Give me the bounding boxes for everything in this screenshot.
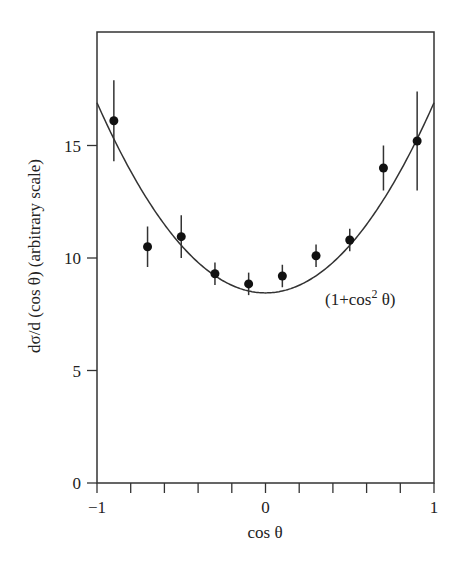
x-axis-ticks: −101 bbox=[88, 483, 438, 517]
curve-annotation: (1+cos2 θ) bbox=[325, 287, 395, 309]
point-marker bbox=[379, 164, 388, 173]
data-point bbox=[177, 215, 186, 258]
y-tick-label: 5 bbox=[73, 362, 82, 381]
point-marker bbox=[109, 116, 118, 125]
x-tick-label: 0 bbox=[261, 498, 270, 517]
data-point bbox=[210, 263, 219, 286]
point-marker bbox=[413, 137, 422, 146]
y-tick-label: 10 bbox=[64, 249, 81, 268]
point-marker bbox=[143, 242, 152, 251]
y-axis-label: dσ/d (cos θ) (arbitrary scale) bbox=[25, 159, 44, 353]
point-marker bbox=[177, 232, 186, 241]
point-marker bbox=[312, 251, 321, 260]
data-point bbox=[109, 80, 118, 161]
data-point bbox=[278, 265, 287, 288]
annotation-end: θ) bbox=[377, 290, 395, 309]
point-marker bbox=[244, 279, 253, 288]
data-point bbox=[312, 245, 321, 268]
point-marker bbox=[278, 272, 287, 281]
y-tick-label: 15 bbox=[64, 137, 81, 156]
data-point bbox=[379, 146, 388, 191]
x-tick-label: −1 bbox=[88, 498, 106, 517]
data-point bbox=[143, 227, 152, 268]
y-axis-ticks: 051015 bbox=[64, 137, 97, 494]
data-points bbox=[109, 80, 421, 295]
y-tick-label: 0 bbox=[73, 474, 82, 493]
data-point bbox=[413, 92, 422, 191]
chart: −101 051015 cos θ dσ/d (cos θ) (arbitrar… bbox=[0, 0, 459, 566]
x-axis-label: cos θ bbox=[247, 523, 282, 542]
point-marker bbox=[210, 269, 219, 278]
point-marker bbox=[345, 236, 354, 245]
x-tick-label: 1 bbox=[430, 498, 439, 517]
annotation-main: (1+cos bbox=[325, 290, 371, 309]
